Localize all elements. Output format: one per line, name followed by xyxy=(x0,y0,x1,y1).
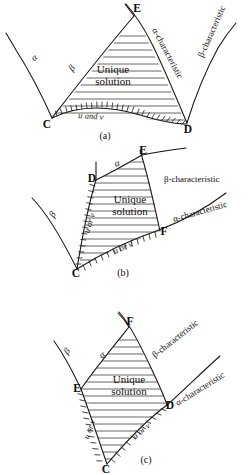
fig-c-point-C: C xyxy=(102,463,110,475)
fig-a-caption: (a) xyxy=(99,130,110,142)
three-panel-characteristics-diagram: C D E α β α-characteristic β-characteris… xyxy=(0,0,248,475)
fig-c-point-D: D xyxy=(166,399,174,411)
fig-c-caption: (c) xyxy=(140,454,151,466)
fig-c-label-beta: β xyxy=(61,346,73,357)
fig-c-region-label-line2: solution xyxy=(111,385,147,397)
fig-b-caption: (b) xyxy=(117,267,129,279)
fig-c-point-F: F xyxy=(126,315,133,327)
figure-root: C D E α β α-characteristic β-characteris… xyxy=(0,0,248,475)
fig-b-region-label-line2: solution xyxy=(112,205,148,217)
fig-a-point-D: D xyxy=(184,123,192,135)
fig-c-region-hatch xyxy=(70,340,180,459)
fig-a-point-C: C xyxy=(43,118,51,130)
fig-a-alpha-curve xyxy=(6,33,52,118)
fig-c-boundary-label-right: u or v xyxy=(130,420,152,441)
fig-b-point-F: F xyxy=(160,225,167,237)
fig-b-point-C: C xyxy=(72,267,80,279)
fig-c-label-alpha: α xyxy=(97,349,108,360)
fig-a-point-E: E xyxy=(133,2,141,14)
fig-b-beta-curve xyxy=(32,198,77,269)
fig-b-label-beta-characteristic: β-characteristic xyxy=(164,174,220,184)
fig-b-point-E: E xyxy=(139,144,147,156)
fig-a-region-label-line1: Unique xyxy=(97,63,130,75)
fig-b-group: D E F C β α β-characteristic α-character… xyxy=(32,144,228,279)
fig-a-label-beta-characteristic: β-characteristic xyxy=(196,4,228,59)
fig-b-beta-characteristic xyxy=(142,148,186,155)
fig-a-region-label-line2: solution xyxy=(95,75,131,87)
fig-a-label-alpha-characteristic: α-characteristic xyxy=(150,26,185,80)
fig-a-group: C D E α β α-characteristic β-characteris… xyxy=(6,2,236,142)
fig-a-label-beta: β xyxy=(66,63,78,74)
fig-c-label-alpha-characteristic: α-characteristic xyxy=(174,370,227,408)
fig-a-initial-curve xyxy=(52,108,187,124)
fig-b-region-label-line1: Unique xyxy=(114,193,147,205)
fig-b-label-alpha: α xyxy=(113,157,122,168)
fig-c-region-label-line1: Unique xyxy=(113,373,146,385)
fig-a-label-alpha: α xyxy=(29,52,40,64)
fig-b-label-alpha-characteristic: α-characteristic xyxy=(172,199,228,224)
fig-b-boundary-label-left: u or v xyxy=(81,212,97,234)
fig-a-boundary-label: u and v xyxy=(78,110,104,122)
fig-c-point-E: E xyxy=(73,382,81,394)
fig-b-point-D: D xyxy=(88,172,96,184)
fig-b-boundary-label-bottom: u or v xyxy=(112,239,135,256)
fig-c-group: F E D C β α β-characteristic α-character… xyxy=(54,312,226,475)
fig-c-label-beta-characteristic: β-characteristic xyxy=(150,317,200,359)
